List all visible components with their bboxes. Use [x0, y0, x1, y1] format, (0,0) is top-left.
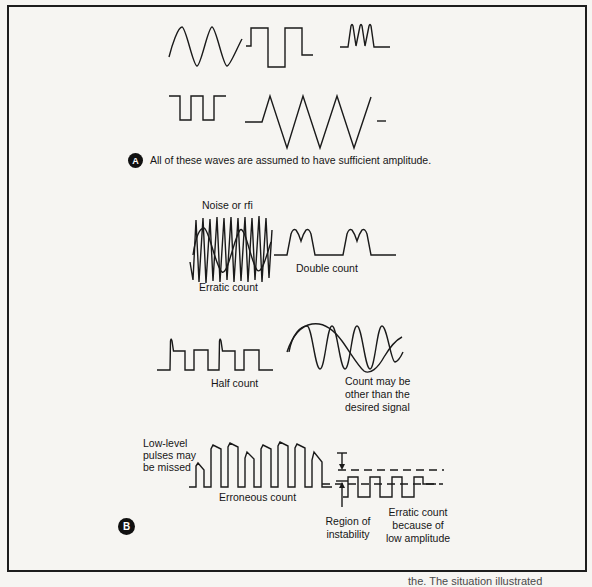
- spike-pulses: [340, 25, 390, 48]
- erratic-count-label: Erratic count: [199, 281, 258, 294]
- panel-a-marker: A: [128, 153, 143, 168]
- erroneous-count-wave: [189, 442, 332, 487]
- region-label-line2: instability: [320, 528, 376, 541]
- other-signal-label-line2: other than the: [345, 388, 410, 401]
- erroneous-count-label: Erroneous count: [219, 491, 296, 504]
- panel-a-caption: All of these waves are assumed to have s…: [150, 154, 431, 167]
- overlapping-sines: [287, 324, 403, 372]
- triangle-wave: [245, 96, 386, 148]
- low-level-label-line3: be missed: [143, 461, 191, 474]
- panel-a-marker-letter: A: [132, 156, 139, 166]
- noise-label: Noise or rfi: [202, 199, 253, 212]
- region-label-line1: Region of: [320, 515, 376, 528]
- sine-wave: [169, 27, 242, 66]
- double-count-wave: [274, 230, 396, 256]
- square-wave: [246, 28, 313, 67]
- noise-wave: [190, 216, 272, 283]
- pulse-train: [169, 96, 226, 120]
- panel-b-marker: B: [118, 518, 135, 535]
- bottom-caption-fragment: the. The situation illustrated: [408, 575, 542, 587]
- low-amp-label-line1: Erratic count: [382, 506, 454, 519]
- low-level-label-line2: pulses may: [143, 449, 196, 462]
- other-signal-label-line1: Count may be: [345, 375, 410, 388]
- half-count-label: Half count: [211, 377, 258, 390]
- instability-annotation: [322, 453, 444, 507]
- other-signal-label-line3: desired signal: [345, 401, 410, 414]
- low-amplitude-wave: [343, 477, 436, 497]
- half-count-wave: [157, 339, 273, 370]
- panel-b-marker-letter: B: [123, 521, 130, 532]
- double-count-label: Double count: [296, 262, 358, 275]
- low-amp-label-line3: low amplitude: [382, 532, 454, 545]
- low-amp-label-line2: because of: [382, 519, 454, 532]
- low-level-label-line1: Low-level: [143, 437, 187, 450]
